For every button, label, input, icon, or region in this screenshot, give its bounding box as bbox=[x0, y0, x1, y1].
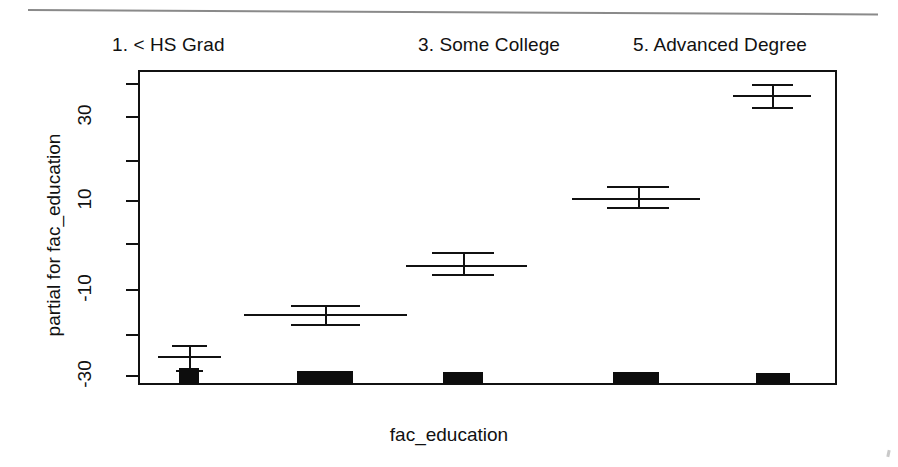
x-axis-title: fac_education bbox=[0, 424, 898, 446]
ci-lower-cap-3 bbox=[432, 274, 494, 276]
ci-lower-cap-5 bbox=[752, 107, 793, 109]
ci-stem-3 bbox=[463, 252, 465, 274]
rug-block-2 bbox=[297, 371, 353, 384]
rug-block-3 bbox=[443, 372, 483, 384]
ci-stem-2 bbox=[325, 305, 327, 324]
ci-stem-4 bbox=[638, 186, 640, 207]
rug-block-5 bbox=[756, 373, 790, 384]
rug-block-1 bbox=[179, 368, 199, 384]
ci-stem-1 bbox=[189, 345, 191, 370]
ci-stem-5 bbox=[772, 84, 774, 107]
ci-lower-cap-4 bbox=[607, 207, 669, 209]
ci-lower-cap-2 bbox=[291, 324, 360, 326]
estimate-line-3 bbox=[406, 265, 527, 267]
estimate-line-4 bbox=[572, 198, 700, 200]
data-series-layer bbox=[0, 0, 898, 467]
figure-page: 1. < HS Grad3. Some College5. Advanced D… bbox=[0, 0, 898, 467]
rug-block-4 bbox=[613, 372, 659, 384]
